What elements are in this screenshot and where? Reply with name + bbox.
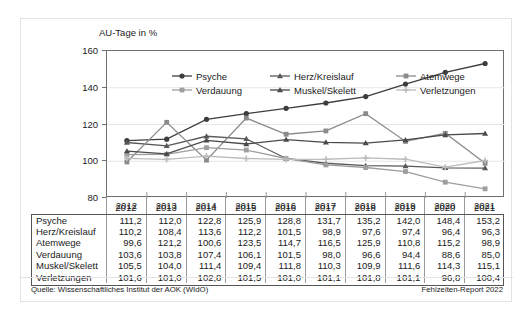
table-cell: 111,2 [107, 214, 147, 226]
y-tick-label: 120 [68, 118, 98, 129]
table-col-header: 2020 [425, 197, 465, 214]
data-point-marker [363, 165, 368, 170]
legend-marker-icon [269, 71, 291, 81]
table-row-label: Verdauung [32, 249, 107, 261]
data-point-marker [323, 100, 328, 105]
table-cell: 123,5 [226, 237, 266, 249]
legend-item-verletzungen[interactable]: Verletzungen [395, 83, 491, 97]
data-point-marker [204, 145, 209, 150]
table-col-header: 2016 [266, 197, 306, 214]
table-cell: 107,4 [186, 249, 226, 261]
table-cell: 88,6 [425, 249, 465, 261]
data-point-marker [244, 116, 249, 121]
table-cell: 98,9 [305, 226, 345, 238]
data-point-marker [204, 117, 209, 122]
legend-item-verdauung[interactable]: Verdauung [171, 83, 269, 97]
table-cell: 110,2 [107, 226, 147, 238]
table-cell: 116,5 [305, 237, 345, 249]
table-row-label: Muskel/Skelett [32, 260, 107, 272]
chart-legend: PsycheHerz/KreislaufAtemwegeVerdauungMus… [171, 69, 491, 97]
y-tick-label: 160 [68, 45, 98, 56]
table-row: Muskel/Skelett105,5104,0111,4109,4111,81… [32, 260, 505, 272]
legend-label: Verletzungen [420, 85, 475, 96]
table-col-header: 2019 [385, 197, 425, 214]
legend-label: Psyche [196, 71, 227, 82]
legend-item-muskel-skelett[interactable]: Muskel/Skelett [269, 83, 395, 97]
table-cell: 112,2 [226, 226, 266, 238]
data-point-marker [363, 111, 368, 116]
legend-marker-icon [171, 85, 193, 95]
figure-container: AU-Tage in % 80100120140160 PsycheHerz/K… [20, 18, 512, 302]
table-cell: 96,4 [425, 226, 465, 238]
table-cell: 101,5 [266, 226, 306, 238]
chart-area: AU-Tage in % 80100120140160 PsycheHerz/K… [21, 19, 513, 199]
table-cell: 111,4 [186, 260, 226, 272]
table-cell: 131,7 [305, 214, 345, 226]
table-corner-cell [32, 197, 107, 214]
table-row: Atemwege99,6121,2100,6123,5114,7116,5125… [32, 237, 505, 249]
y-tick-label: 100 [68, 155, 98, 166]
data-point-marker [483, 61, 488, 66]
legend-label: Atemwege [420, 71, 465, 82]
table-cell: 148,4 [425, 214, 465, 226]
table-cell: 135,2 [345, 214, 385, 226]
legend-marker-icon [395, 85, 417, 95]
data-table-wrapper: 2012201320142015201620172018201920202021… [31, 197, 504, 283]
table-cell: 111,6 [385, 260, 425, 272]
data-point-marker [363, 155, 369, 161]
legend-item-herz-kreislauf[interactable]: Herz/Kreislauf [269, 69, 395, 83]
table-row: Psyche111,2112,0122,8125,9128,8131,7135,… [32, 214, 505, 226]
series-verdauung [125, 145, 488, 191]
table-cell: 108,4 [146, 226, 186, 238]
table-cell: 122,8 [186, 214, 226, 226]
table-row-label: Psyche [32, 214, 107, 226]
table-cell: 98,0 [305, 249, 345, 261]
table-cell: 96,6 [345, 249, 385, 261]
table-row-label: Herz/Kreislauf [32, 226, 107, 238]
y-axis-title: AU-Tage in % [99, 27, 157, 38]
table-col-header: 2015 [226, 197, 266, 214]
table-cell: 125,9 [345, 237, 385, 249]
legend-marker-icon [171, 71, 193, 81]
figure-footer: Quelle: Wissenschaftliches Institut der … [21, 277, 513, 301]
legend-item-atemwege[interactable]: Atemwege [395, 69, 491, 83]
table-row: Verdauung103,6103,8107,4106,1101,598,096… [32, 249, 505, 261]
data-point-marker [164, 120, 169, 125]
data-point-marker [180, 88, 185, 93]
table-cell: 100,6 [186, 237, 226, 249]
series-line [127, 114, 485, 164]
table-row-label: Atemwege [32, 237, 107, 249]
table-cell: 109,4 [226, 260, 266, 272]
table-cell: 115,2 [425, 237, 465, 249]
table-cell: 112,0 [146, 214, 186, 226]
table-col-header: 2012 [107, 197, 147, 214]
table-col-header: 2014 [186, 197, 226, 214]
table-cell: 110,3 [305, 260, 345, 272]
table-cell: 125,9 [226, 214, 266, 226]
legend-item-psyche[interactable]: Psyche [171, 69, 269, 83]
data-point-marker [179, 73, 184, 78]
legend-marker-icon [269, 85, 291, 95]
legend-label: Herz/Kreislauf [294, 71, 354, 82]
series-line [127, 148, 485, 189]
data-point-marker [244, 111, 249, 116]
source-note: Quelle: Wissenschaftliches Institut der … [31, 285, 208, 294]
table-cell: 104,0 [146, 260, 186, 272]
data-point-marker [404, 74, 409, 79]
data-point-marker [324, 163, 329, 168]
data-table: 2012201320142015201620172018201920202021… [31, 197, 504, 283]
legend-marker-icon [395, 71, 417, 81]
data-point-marker [324, 129, 329, 134]
table-cell: 105,5 [107, 260, 147, 272]
table-cell: 101,5 [266, 249, 306, 261]
legend-label: Muskel/Skelett [294, 85, 356, 96]
data-point-marker [403, 169, 408, 174]
table-cell: 111,8 [266, 260, 306, 272]
table-cell: 97,6 [345, 226, 385, 238]
series-atemwege [125, 111, 488, 165]
series-line [127, 134, 485, 154]
table-col-header: 2017 [305, 197, 345, 214]
legend-label: Verdauung [196, 85, 242, 96]
table-col-header: 2013 [146, 197, 186, 214]
table-cell: 113,6 [186, 226, 226, 238]
